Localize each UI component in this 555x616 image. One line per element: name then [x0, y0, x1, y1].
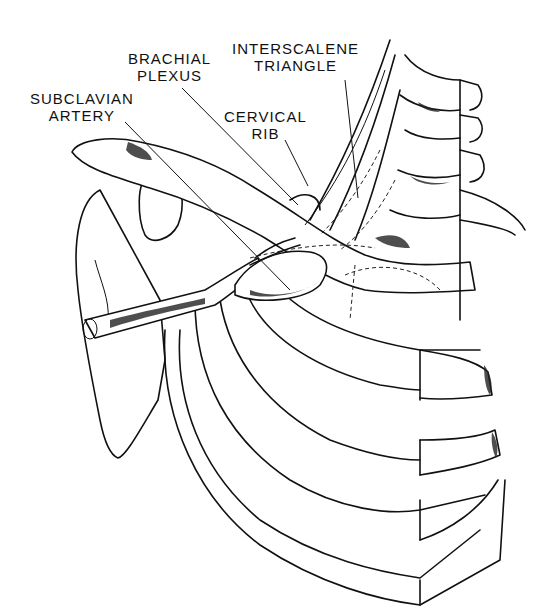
label-line: ARTERY [30, 107, 134, 124]
label-line: CERVICAL [224, 108, 307, 125]
label-line: BRACHIAL [128, 50, 211, 67]
leader-cervical [285, 140, 308, 186]
label-subclavian-artery: SUBCLAVIAN ARTERY [30, 90, 134, 124]
label-interscalene-triangle: INTERSCALENE TRIANGLE [232, 40, 359, 74]
label-line: RIB [224, 125, 307, 142]
label-line: PLEXUS [128, 67, 211, 84]
label-brachial-plexus: BRACHIAL PLEXUS [128, 50, 211, 84]
leader-interscalene [345, 80, 358, 198]
label-cervical-rib: CERVICAL RIB [224, 108, 307, 142]
rib-cage [165, 290, 505, 605]
label-line: TRIANGLE [232, 57, 359, 74]
label-line: SUBCLAVIAN [30, 90, 134, 107]
label-line: INTERSCALENE [232, 40, 359, 57]
